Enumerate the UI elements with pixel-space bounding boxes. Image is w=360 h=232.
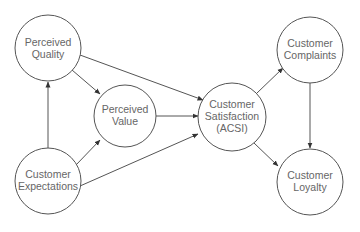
svg-text:Perceived: Perceived: [25, 36, 72, 48]
svg-text:Customer: Customer: [209, 98, 255, 110]
svg-text:Customer: Customer: [287, 169, 333, 181]
edge-satisfaction-to-loyalty: [254, 143, 278, 166]
node-customer-complaints: Customer Complaints: [277, 17, 343, 83]
edge-expectations-to-value: [76, 140, 100, 165]
svg-text:Value: Value: [112, 115, 138, 127]
svg-text:Perceived: Perceived: [102, 103, 149, 115]
svg-text:Complaints: Complaints: [284, 49, 337, 61]
acsi-diagram: Perceived Quality Perceived Value Custom…: [0, 0, 360, 232]
svg-text:Satisfaction: Satisfaction: [205, 110, 259, 122]
edge-quality-to-value: [72, 70, 100, 94]
svg-text:Customer: Customer: [287, 37, 333, 49]
svg-text:Expectations: Expectations: [18, 180, 78, 192]
node-perceived-quality: Perceived Quality: [15, 15, 81, 81]
svg-text:(ACSI): (ACSI): [216, 122, 248, 134]
svg-text:Loyalty: Loyalty: [293, 181, 327, 193]
edge-satisfaction-to-complaints: [257, 68, 283, 93]
node-perceived-value: Perceived Value: [94, 85, 156, 147]
node-customer-loyalty: Customer Loyalty: [277, 149, 343, 215]
node-customer-expectations: Customer Expectations: [15, 148, 81, 214]
node-customer-satisfaction: Customer Satisfaction (ACSI): [198, 83, 266, 151]
svg-text:Customer: Customer: [25, 168, 71, 180]
svg-text:Quality: Quality: [32, 48, 65, 60]
